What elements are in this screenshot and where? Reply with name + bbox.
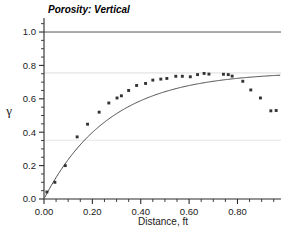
- fitted-model-curve: [45, 75, 280, 197]
- data-point-marker: [98, 111, 101, 114]
- data-point-marker: [231, 75, 234, 78]
- data-point-markers: [45, 72, 277, 193]
- chart-title: Porosity: Vertical: [48, 4, 130, 15]
- data-point-marker: [275, 109, 278, 112]
- data-point-marker: [249, 89, 252, 92]
- distance-tick-label: 0.20: [83, 206, 102, 217]
- data-point-marker: [120, 94, 123, 97]
- chart-figure: 0.00.20.40.60.81.0 0.000.200.400.600.80 …: [0, 0, 286, 228]
- data-point-marker: [227, 73, 230, 76]
- data-point-marker: [241, 80, 244, 83]
- gamma-axis-ticks: [39, 24, 44, 199]
- gamma-tick-label: 0.0: [23, 193, 36, 204]
- gamma-tick-label: 0.2: [23, 160, 36, 171]
- data-point-marker: [189, 75, 192, 78]
- distance-axis-ticks: [44, 199, 274, 204]
- distance-tick-label: 0.00: [35, 206, 54, 217]
- data-point-marker: [269, 109, 272, 112]
- data-point-marker: [45, 191, 48, 194]
- x-axis-title: Distance, ft: [138, 216, 188, 227]
- data-point-marker: [165, 77, 168, 80]
- data-point-marker: [196, 73, 199, 76]
- data-point-marker: [203, 72, 206, 75]
- data-point-marker: [116, 97, 119, 100]
- data-point-marker: [76, 135, 79, 138]
- data-point-marker: [144, 82, 147, 85]
- data-point-marker: [174, 75, 177, 78]
- data-point-marker: [127, 89, 130, 92]
- data-point-marker: [151, 79, 154, 82]
- reference-lines: [44, 32, 281, 140]
- data-point-marker: [222, 73, 225, 76]
- gamma-tick-label: 0.4: [23, 127, 36, 138]
- data-point-marker: [64, 164, 67, 167]
- data-point-marker: [181, 75, 184, 78]
- data-point-marker: [159, 78, 162, 81]
- data-point-marker: [259, 97, 262, 100]
- y-axis-title: γ: [5, 103, 12, 118]
- data-point-marker: [207, 73, 210, 76]
- distance-tick-label: 0.80: [228, 206, 247, 217]
- data-point-marker: [107, 102, 110, 105]
- data-point-marker: [53, 181, 56, 184]
- data-point-marker: [135, 84, 138, 87]
- gamma-tick-label: 1.0: [23, 26, 36, 37]
- data-point-marker: [86, 123, 89, 126]
- gamma-tick-label: 0.8: [23, 60, 36, 71]
- variogram-plot: 0.00.20.40.60.81.0 0.000.200.400.600.80 …: [0, 0, 286, 228]
- gamma-tick-label: 0.6: [23, 93, 36, 104]
- gamma-tick-labels: 0.00.20.40.60.81.0: [23, 26, 36, 204]
